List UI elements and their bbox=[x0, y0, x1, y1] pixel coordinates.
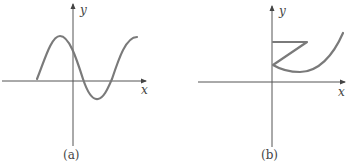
panel-b-caption: (b) bbox=[261, 148, 278, 162]
panel-a: y x (a) bbox=[2, 3, 148, 162]
panel-a-caption: (a) bbox=[63, 148, 80, 162]
panel-a-y-label: y bbox=[79, 3, 87, 17]
panel-a-sine-curve bbox=[37, 36, 137, 99]
panel-a-x-label: x bbox=[141, 83, 148, 97]
figure-canvas: y x (a) y x (b) bbox=[0, 0, 347, 163]
panel-b: y x (b) bbox=[198, 4, 345, 162]
panel-b-y-label: y bbox=[278, 4, 286, 18]
panel-b-x-label: x bbox=[338, 85, 345, 99]
panel-b-z-curve bbox=[273, 33, 343, 72]
